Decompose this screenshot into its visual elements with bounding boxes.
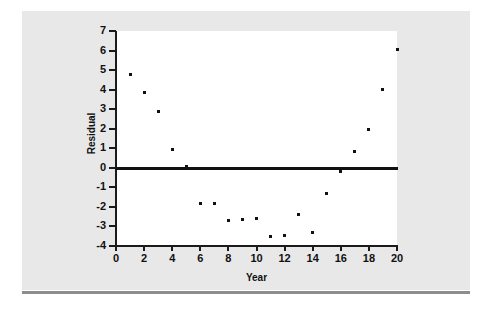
data-point [353, 150, 356, 153]
y-tick-label: -2 [80, 201, 106, 212]
x-tick-label: 12 [273, 253, 297, 264]
y-tick-mark [109, 50, 116, 52]
data-point [241, 218, 244, 221]
x-tick-mark [227, 245, 229, 251]
y-tick-mark [109, 206, 116, 208]
data-point [311, 231, 314, 234]
data-point [255, 217, 258, 220]
y-tick-mark [109, 147, 116, 149]
chart-page: 76543210-1-2-3-4 02468101214161820 Resid… [0, 0, 492, 311]
y-tick-label: 6 [80, 45, 106, 56]
plot-area [116, 31, 397, 246]
data-point [396, 48, 399, 51]
data-point [227, 219, 230, 222]
y-tick-label: 5 [80, 64, 106, 75]
x-tick-mark [199, 245, 201, 251]
data-point [129, 73, 132, 76]
y-tick-mark [109, 108, 116, 110]
data-point [157, 110, 160, 113]
x-tick-mark [256, 245, 258, 251]
y-tick-mark [109, 30, 116, 32]
x-tick-label: 10 [245, 253, 269, 264]
x-axis-title: Year [116, 272, 397, 283]
y-tick-mark [109, 225, 116, 227]
x-tick-label: 16 [329, 253, 353, 264]
data-point [339, 170, 342, 173]
y-tick-mark [109, 167, 116, 169]
x-tick-label: 6 [188, 253, 212, 264]
x-tick-label: 20 [385, 253, 409, 264]
data-point [297, 213, 300, 216]
y-tick-mark [109, 69, 116, 71]
x-tick-mark [171, 245, 173, 251]
data-point [283, 234, 286, 237]
y-tick-mark [109, 128, 116, 130]
x-tick-label: 14 [301, 253, 325, 264]
zero-reference-line [115, 167, 398, 170]
y-tick-label: -3 [80, 220, 106, 231]
x-tick-mark [284, 245, 286, 251]
data-point [381, 88, 384, 91]
x-tick-label: 2 [132, 253, 156, 264]
y-axis-title: Residual [86, 99, 97, 169]
y-tick-mark [109, 186, 116, 188]
data-point [185, 165, 188, 168]
x-tick-mark [143, 245, 145, 251]
x-tick-label: 0 [104, 253, 128, 264]
x-tick-mark [312, 245, 314, 251]
x-tick-label: 4 [160, 253, 184, 264]
y-tick-label: -4 [80, 240, 106, 251]
x-tick-mark [115, 245, 117, 251]
y-tick-label: 7 [80, 25, 106, 36]
x-tick-label: 18 [357, 253, 381, 264]
y-axis-line [115, 31, 117, 246]
y-tick-label: 4 [80, 84, 106, 95]
data-point [143, 91, 146, 94]
y-tick-label: -1 [80, 181, 106, 192]
y-tick-mark [109, 89, 116, 91]
data-point [213, 202, 216, 205]
data-point [367, 128, 370, 131]
x-tick-mark [340, 245, 342, 251]
data-point [325, 192, 328, 195]
x-tick-label: 8 [216, 253, 240, 264]
data-point [269, 235, 272, 238]
data-point [171, 148, 174, 151]
x-tick-mark [368, 245, 370, 251]
bottom-divider [22, 291, 470, 294]
data-point [199, 202, 202, 205]
x-tick-mark [396, 245, 398, 251]
